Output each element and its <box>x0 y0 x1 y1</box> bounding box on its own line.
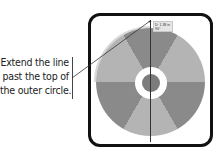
measurement-tooltip: D: 1.38 in 90° <box>153 21 173 32</box>
callout-leader-line <box>0 0 223 156</box>
crosshair-cursor-icon: + <box>148 18 152 24</box>
leader-line <box>72 21 150 78</box>
tooltip-angle: 90° <box>155 27 171 32</box>
